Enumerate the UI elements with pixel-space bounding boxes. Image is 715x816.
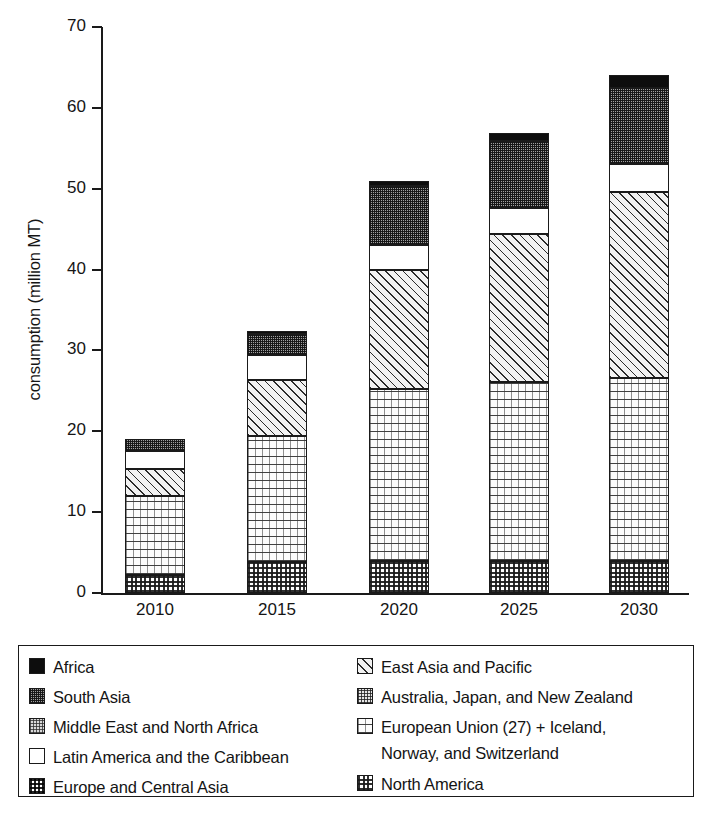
legend-swatch-icon — [357, 718, 373, 734]
y-tick-mark — [92, 349, 102, 351]
bar-segment[interactable] — [125, 496, 185, 575]
legend-item[interactable]: East Asia and Pacific — [357, 654, 691, 681]
bar-segment[interactable] — [369, 245, 429, 270]
legend-item[interactable]: Africa — [29, 654, 359, 681]
bar-2020[interactable] — [369, 592, 429, 593]
bar-segment[interactable] — [247, 331, 307, 334]
legend-label: North America — [381, 771, 484, 797]
bar-segment[interactable] — [125, 439, 185, 451]
legend-swatch-icon — [29, 658, 45, 674]
x-tick-label-2030: 2030 — [584, 600, 694, 620]
legend-swatch-icon — [357, 688, 373, 704]
y-tick-mark — [92, 188, 102, 190]
bar-2025[interactable] — [489, 592, 549, 593]
y-tick-label: 20 — [40, 420, 86, 440]
x-tick-label-2010: 2010 — [100, 600, 210, 620]
legend-swatch-icon — [29, 718, 45, 734]
legend-label: South Asia — [53, 684, 130, 710]
legend-label: Australia, Japan, and New Zealand — [381, 684, 633, 710]
legend-swatch-icon — [29, 748, 45, 764]
bar-segment[interactable] — [247, 562, 307, 593]
y-tick-mark — [92, 592, 102, 594]
legend-swatch-icon — [357, 775, 373, 791]
bar-segment[interactable] — [369, 270, 429, 389]
bar-segment[interactable] — [369, 186, 429, 245]
y-tick-label: 70 — [40, 16, 86, 36]
legend-item[interactable]: South Asia — [29, 684, 359, 711]
legend-swatch-icon — [29, 778, 45, 794]
bar-segment[interactable] — [489, 133, 549, 141]
bar-segment[interactable] — [609, 164, 669, 191]
bar-segment[interactable] — [247, 380, 307, 436]
x-tick-label-2025: 2025 — [464, 600, 574, 620]
y-tick-mark — [92, 430, 102, 432]
legend-item[interactable]: Middle East and North Africa — [29, 714, 359, 741]
legend-swatch-icon — [29, 688, 45, 704]
bar-segment[interactable] — [489, 208, 549, 234]
bar-segment[interactable] — [125, 451, 185, 470]
legend-swatch-icon — [357, 658, 373, 674]
plot-area: consumption (million MT) 010203040506070… — [0, 0, 715, 630]
bar-segment[interactable] — [489, 141, 549, 208]
legend-label: Latin America and the Caribbean — [53, 744, 289, 770]
bar-segment[interactable] — [489, 561, 549, 593]
y-axis-title: consumption (million MT) — [25, 50, 44, 570]
legend-item[interactable]: Latin America and the Caribbean — [29, 744, 359, 771]
y-tick-label: 50 — [40, 178, 86, 198]
bar-segment[interactable] — [609, 561, 669, 593]
x-tick-label-2015: 2015 — [222, 600, 332, 620]
y-tick-label: 0 — [40, 582, 86, 602]
bar-segment[interactable] — [247, 334, 307, 355]
bar-segment[interactable] — [125, 575, 185, 593]
bar-segment[interactable] — [609, 378, 669, 561]
legend-item[interactable]: Australia, Japan, and New Zealand — [357, 684, 691, 711]
y-tick-mark — [92, 107, 102, 109]
y-tick-label: 30 — [40, 339, 86, 359]
legend-column-left: AfricaSouth AsiaMiddle East and North Af… — [29, 654, 359, 804]
bar-2030[interactable] — [609, 592, 669, 593]
x-tick-label-2020: 2020 — [344, 600, 454, 620]
bar-segment[interactable] — [125, 469, 185, 496]
legend: AfricaSouth AsiaMiddle East and North Af… — [18, 645, 694, 797]
bar-segment[interactable] — [609, 75, 669, 88]
y-tick-mark — [92, 511, 102, 513]
legend-item[interactable]: European Union (27) + Iceland, Norway, a… — [357, 714, 691, 768]
legend-label: Europe and Central Asia — [53, 774, 228, 800]
bar-2015[interactable] — [247, 592, 307, 593]
x-axis-line — [101, 593, 689, 595]
bar-segment[interactable] — [247, 436, 307, 562]
legend-item[interactable]: North America — [357, 771, 691, 798]
y-axis-line — [101, 27, 103, 595]
bar-segment[interactable] — [489, 382, 549, 561]
legend-column-right: East Asia and PacificAustralia, Japan, a… — [357, 654, 691, 801]
y-tick-label: 60 — [40, 97, 86, 117]
chart-figure: consumption (million MT) 010203040506070… — [0, 0, 715, 816]
bar-segment[interactable] — [369, 389, 429, 560]
bar-segment[interactable] — [369, 181, 429, 186]
y-tick-label: 10 — [40, 501, 86, 521]
legend-label: East Asia and Pacific — [381, 654, 532, 680]
bar-segment[interactable] — [489, 234, 549, 382]
bar-segment[interactable] — [609, 88, 669, 165]
legend-item[interactable]: Europe and Central Asia — [29, 774, 359, 801]
legend-label: European Union (27) + Iceland, Norway, a… — [381, 714, 606, 766]
bar-2010[interactable] — [125, 592, 185, 593]
bar-segment[interactable] — [609, 192, 669, 378]
y-tick-mark — [92, 269, 102, 271]
bar-segment[interactable] — [247, 355, 307, 380]
y-tick-label: 40 — [40, 259, 86, 279]
y-tick-mark — [92, 26, 102, 28]
legend-label: Africa — [53, 654, 94, 680]
bar-segment[interactable] — [369, 561, 429, 593]
legend-label: Middle East and North Africa — [53, 714, 258, 740]
